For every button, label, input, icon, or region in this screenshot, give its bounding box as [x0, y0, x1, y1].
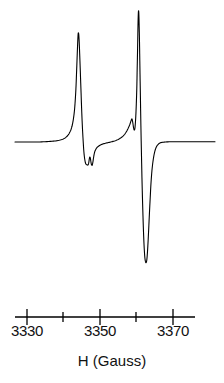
x-tick-label-3370: 3370 [157, 322, 189, 339]
x-tick-label-3330: 3330 [11, 322, 43, 339]
x-axis-title: H (Gauss) [0, 352, 224, 369]
spectrum-trace-group [15, 11, 215, 263]
x-tick-label-3350: 3350 [84, 322, 116, 339]
epr-derivative-trace [15, 11, 215, 263]
epr-spectrum-figure: 3330 3350 3370 H (Gauss) [0, 0, 224, 383]
